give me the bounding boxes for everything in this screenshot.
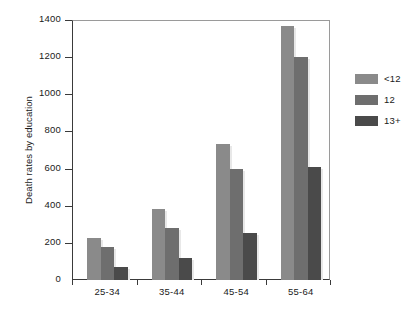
legend-label: 13+: [384, 114, 401, 128]
legend-label: <12: [384, 72, 401, 86]
legend-swatch: [355, 74, 378, 84]
legend-swatch: [355, 95, 378, 105]
y-axis-label: Death rates by education: [22, 20, 36, 280]
y-axis-tick-mark: [65, 131, 72, 132]
y-axis-tick-mark: [65, 206, 72, 207]
x-axis-tick-mark: [201, 280, 202, 285]
x-axis-category-label: 35-44: [142, 286, 202, 297]
bar: [114, 267, 128, 280]
bar: [308, 167, 322, 280]
bar: [152, 209, 166, 281]
y-axis-tick-mark: [65, 243, 72, 244]
y-axis-tick-mark: [65, 169, 72, 170]
bar: [294, 57, 308, 280]
bar: [101, 247, 115, 280]
bar: [243, 233, 257, 280]
y-axis-tick-label: 1200: [39, 50, 61, 61]
y-axis-tick-label: 1400: [39, 13, 61, 24]
y-axis-tick-mark: [65, 94, 72, 95]
x-axis-tick-mark: [137, 280, 138, 285]
x-axis-category-label: 25-34: [77, 286, 137, 297]
bar: [87, 238, 101, 280]
y-axis-tick-mark: [65, 57, 72, 58]
x-axis-tick-mark: [72, 280, 73, 285]
y-axis-tick-label: 600: [45, 162, 61, 173]
y-axis-tick-mark: [65, 20, 72, 21]
x-axis-category-label: 55-64: [271, 286, 331, 297]
bar: [230, 169, 244, 280]
x-axis-tick-mark: [330, 280, 331, 285]
y-axis-tick-label: 0: [56, 273, 61, 284]
bar: [281, 26, 295, 280]
bar: [165, 228, 179, 280]
y-axis-tick-label: 200: [45, 236, 61, 247]
y-axis-tick-label: 800: [45, 124, 61, 135]
y-axis-tick-label: 400: [45, 199, 61, 210]
legend-swatch: [355, 116, 378, 126]
legend-label: 12: [384, 93, 395, 107]
bar-chart: Death rates by education 020040060080010…: [0, 0, 417, 311]
x-axis-tick-mark: [266, 280, 267, 285]
y-axis-tick-label: 1000: [39, 87, 61, 98]
x-axis-category-label: 45-54: [206, 286, 266, 297]
bar: [216, 144, 230, 281]
bar: [179, 258, 193, 280]
